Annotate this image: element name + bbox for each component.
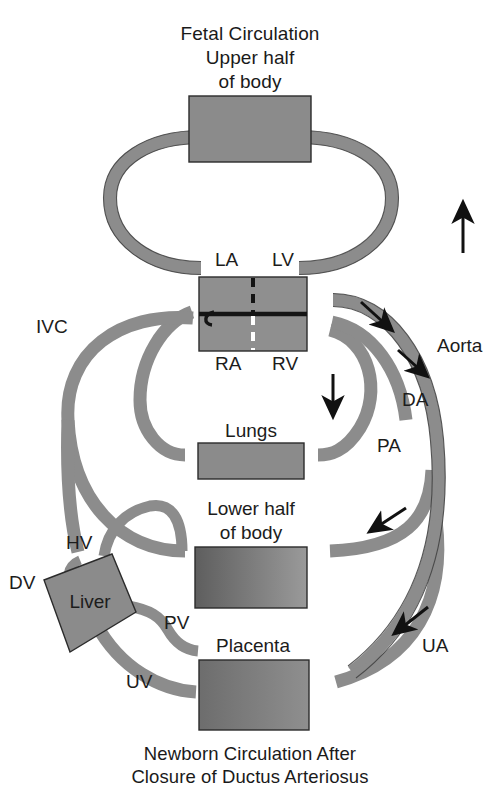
- label-ivc: IVC: [36, 316, 68, 337]
- label-lower-body-line-2: of body: [220, 522, 283, 543]
- vessel-aorta-to-lower-body: [330, 470, 432, 551]
- organ-placenta-box: [199, 660, 309, 730]
- label-ua: UA: [422, 635, 449, 656]
- label-lv: LV: [272, 249, 294, 270]
- organ-lungs-box: [198, 443, 304, 479]
- label-placenta: Placenta: [216, 635, 290, 656]
- label-dv: DV: [9, 572, 36, 593]
- vessel-pulmonary-right: [318, 330, 371, 455]
- vessel-upper-loop-left: [110, 137, 201, 268]
- label-hv: HV: [66, 532, 93, 553]
- label-pv: PV: [164, 612, 190, 633]
- vessel-pulmonary-left: [140, 312, 192, 455]
- arrow-descending: [380, 508, 406, 525]
- label-aorta: Aorta: [437, 335, 483, 356]
- label-ra: RA: [215, 353, 242, 374]
- heart-block: [199, 277, 307, 351]
- label-rv: RV: [272, 353, 298, 374]
- figure-caption: Newborn Circulation After Closure of Duc…: [0, 742, 500, 788]
- label-pa: PA: [377, 435, 401, 456]
- label-lungs: Lungs: [225, 420, 277, 441]
- vessel-upper-loop-right: [299, 137, 392, 268]
- label-la: LA: [215, 249, 239, 270]
- footer-line-2: Closure of Ductus Arteriosus: [0, 765, 500, 788]
- label-lower-body-line-1: Lower half: [207, 498, 295, 519]
- label-da: DA: [402, 389, 429, 410]
- organ-upper-body-box: [189, 96, 311, 162]
- footer-line-1: Newborn Circulation After: [0, 742, 500, 765]
- label-liver: Liver: [69, 591, 111, 612]
- figure-page: Fetal Circulation Upper half of body: [0, 0, 500, 792]
- label-uv: UV: [126, 671, 153, 692]
- fetal-circulation-diagram: LA LV RA RV IVC Aorta DA PA HV DV PV UV …: [0, 0, 500, 792]
- organ-lower-body-box: [195, 547, 307, 608]
